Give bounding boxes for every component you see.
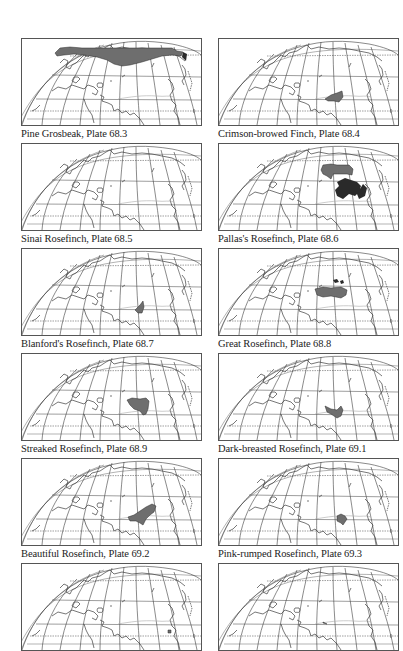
map-panel-great-rosefinch: Great Rosefinch, Plate 68.8 [218,248,399,336]
range-map-svg [22,459,201,545]
map-panel-beautiful-rosefinch: Beautiful Rosefinch, Plate 69.2 [21,458,202,546]
map-panel-pine-grosbeak: Pine Grosbeak, Plate 68.3 [21,38,202,126]
range-map-svg [22,39,201,125]
range-map-svg [219,354,398,440]
map-panel-pallass-rosefinch: Pallas's Rosefinch, Plate 68.6 [218,143,399,231]
range-map-svg [22,144,201,230]
map-panel-dark-breasted-rosefinch: Dark-breasted Rosefinch, Plate 69.1 [218,353,399,441]
range-map-svg [219,459,398,545]
range-area [135,301,144,313]
map-caption: Pine Grosbeak, Plate 68.3 [21,128,127,139]
range-map-svg [22,354,201,440]
map-caption: Great Rosefinch, Plate 68.8 [218,338,331,349]
range-area [325,406,343,418]
range-map [21,248,202,336]
range-area-secondary [335,178,367,199]
range-map-svg [219,39,398,125]
range-map-svg [22,564,201,650]
range-map [218,38,399,126]
range-area [128,504,156,525]
map-caption: Dark-breasted Rosefinch, Plate 69.1 [218,443,366,454]
range-area [315,287,347,298]
range-map-svg [219,249,398,335]
map-panel-blanfords-rosefinch: Blanford's Rosefinch, Plate 68.7 [21,248,202,336]
map-panel-streaked-rosefinch: Streaked Rosefinch, Plate 68.9 [21,353,202,441]
map-panel-crimson-browed-finch: Crimson-browed Finch, Plate 68.4 [218,38,399,126]
map-caption: Pink-rumped Rosefinch, Plate 69.3 [218,548,362,559]
range-area-secondary [333,279,344,284]
range-map [21,38,202,126]
range-map [218,248,399,336]
map-caption: Pallas's Rosefinch, Plate 68.6 [218,233,339,244]
range-map [218,143,399,231]
map-caption: Crimson-browed Finch, Plate 68.4 [218,128,360,139]
range-map-svg [22,249,201,335]
range-map [21,458,202,546]
map-panel-partial-right [218,563,399,651]
range-map [218,353,399,441]
range-map-svg [219,144,398,230]
range-map [21,143,202,231]
range-area-secondary [182,52,187,61]
range-map-svg [219,564,398,650]
map-caption: Sinai Rosefinch, Plate 68.5 [21,233,132,244]
range-map [218,458,399,546]
range-map [21,353,202,441]
map-panel-partial-left [21,563,202,651]
range-map [218,563,399,651]
range-area [321,164,353,179]
map-caption: Beautiful Rosefinch, Plate 69.2 [21,548,149,559]
map-caption: Blanford's Rosefinch, Plate 68.7 [21,338,154,349]
range-map [21,563,202,651]
range-area [168,630,171,633]
map-caption: Streaked Rosefinch, Plate 68.9 [21,443,147,454]
map-panel-pink-rumped-rosefinch: Pink-rumped Rosefinch, Plate 69.3 [218,458,399,546]
map-panel-sinai-rosefinch: Sinai Rosefinch, Plate 68.5 [21,143,202,231]
range-area [325,91,343,102]
